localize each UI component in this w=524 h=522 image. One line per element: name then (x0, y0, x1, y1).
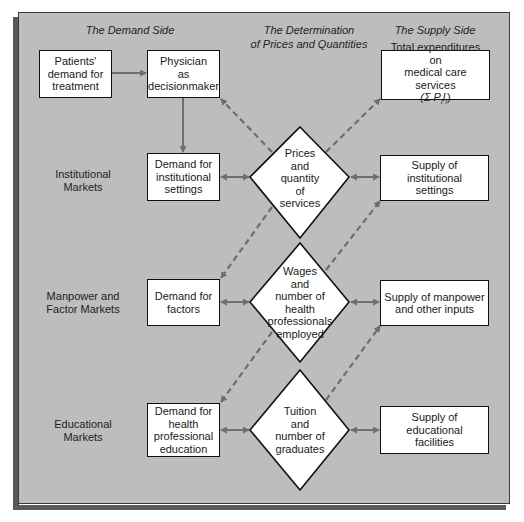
header-supply-side: The Supply Side (385, 23, 485, 37)
header-determination: The Determination of Prices and Quantiti… (234, 23, 384, 51)
box-demand-education: Demand for health professional education (147, 403, 220, 457)
formula-prefix: (Σ P (420, 91, 441, 103)
row-label-manpower: Manpower and Factor Markets (36, 290, 130, 316)
header-determination-line2: of Prices and Quantities (234, 37, 384, 51)
box-supply-institutional: Supply of institutional settings (380, 155, 489, 201)
dashed-wages-to-edu-demand (221, 332, 272, 402)
box-demand-institutional: Demand for institutional settings (147, 153, 220, 201)
header-determination-line1: The Determination (234, 23, 384, 37)
box-total-expenditures: Total expenditures on medical care servi… (381, 50, 490, 100)
expenditures-formula: (Σ PiIi) (420, 91, 451, 109)
box-demand-factors: Demand for factors (147, 279, 220, 326)
expenditures-line1: Total expenditures on (384, 41, 487, 66)
box-supply-manpower: Supply of manpower and other inputs (380, 280, 489, 326)
row-label-educational: Educational Markets (42, 418, 124, 444)
expenditures-line2: medical care services (384, 66, 487, 91)
box-physician-decisionmaker: Physician as decisionmaker (147, 50, 220, 98)
box-patients-demand: Patients' demand for treatment (39, 50, 112, 98)
dashed-prices-to-expenditures (326, 99, 380, 152)
diamond-tuition-label: Tuition and number of graduates (260, 405, 340, 455)
diamond-prices-label: Prices and quantity of services (262, 147, 338, 210)
row-label-institutional: Institutional Markets (42, 168, 124, 194)
dashed-prices-to-physician (221, 99, 272, 152)
header-demand-side: The Demand Side (70, 23, 190, 37)
diamond-wages-label: Wages and number of health professionals… (252, 265, 348, 340)
dashed-wages-to-inst-supply (326, 201, 380, 270)
formula-suffix: ) (447, 91, 451, 103)
box-supply-educational: Supply of educational facilities (380, 406, 489, 454)
